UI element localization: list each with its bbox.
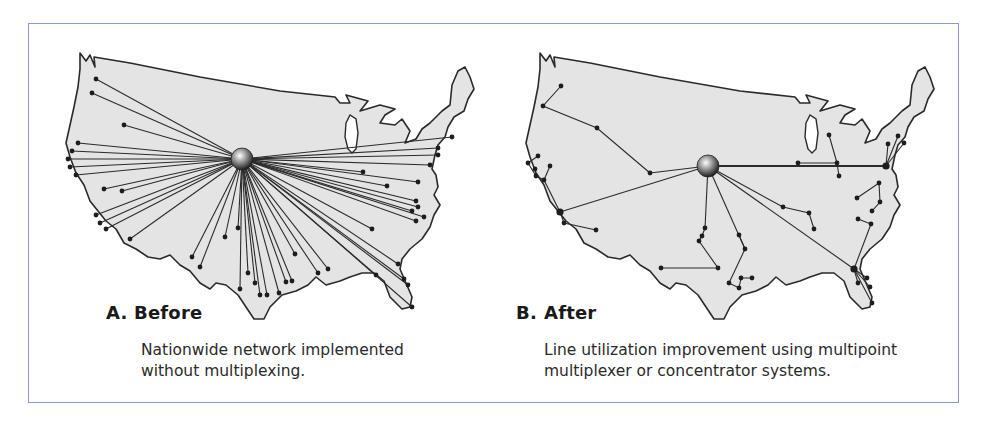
panel-title: After bbox=[544, 302, 596, 323]
panel-letter: B. bbox=[516, 302, 544, 323]
panel-title-after: B.After bbox=[516, 302, 596, 323]
caption-line: Line utilization improvement using multi… bbox=[544, 340, 897, 361]
panel-title-before: A.Before bbox=[106, 302, 202, 323]
us-map-after bbox=[500, 45, 945, 325]
caption-line: without multiplexing. bbox=[141, 361, 404, 382]
hub-sphere-icon bbox=[697, 155, 719, 177]
panel-title: Before bbox=[134, 302, 202, 323]
us-map-before bbox=[50, 45, 480, 325]
panel-letter: A. bbox=[106, 302, 134, 323]
caption-line: Nationwide network implemented bbox=[141, 340, 404, 361]
lake-michigan bbox=[805, 115, 818, 153]
us-outline bbox=[526, 53, 934, 319]
panel-caption-before: Nationwide network implemented without m… bbox=[141, 340, 404, 382]
hub-sphere-icon bbox=[231, 148, 253, 170]
us-outline bbox=[66, 53, 474, 319]
panel-caption-after: Line utilization improvement using multi… bbox=[544, 340, 897, 382]
caption-line: multiplexer or concentrator systems. bbox=[544, 361, 897, 382]
